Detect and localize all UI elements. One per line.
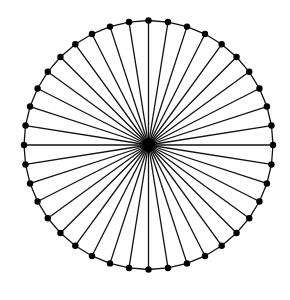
rim-node bbox=[126, 19, 132, 25]
rim-node bbox=[264, 180, 270, 186]
rim-node bbox=[270, 142, 276, 148]
rim-node bbox=[165, 265, 171, 271]
spoke-line bbox=[149, 145, 187, 263]
rim-node bbox=[27, 103, 33, 109]
spoke-line bbox=[48, 72, 149, 145]
spoke-line bbox=[149, 145, 250, 218]
spoke-line bbox=[149, 145, 237, 233]
rim-node bbox=[233, 230, 239, 236]
spoke-line bbox=[75, 145, 148, 246]
spoke-line bbox=[149, 107, 267, 145]
spoke-line bbox=[110, 27, 148, 145]
rim-node bbox=[27, 180, 33, 186]
rim-node bbox=[165, 19, 171, 25]
rim-node bbox=[184, 23, 190, 29]
spoke-line bbox=[48, 145, 149, 218]
rim-node bbox=[89, 253, 95, 259]
rim-node bbox=[107, 260, 113, 266]
rim-node bbox=[268, 161, 274, 167]
spoke-line bbox=[30, 107, 148, 145]
rim-node bbox=[233, 54, 239, 60]
spoke-line bbox=[30, 145, 148, 183]
rim-node bbox=[57, 230, 63, 236]
rim-node bbox=[246, 69, 252, 75]
rim-node bbox=[246, 215, 252, 221]
rim-node bbox=[89, 31, 95, 37]
rim-node bbox=[22, 122, 28, 128]
spoke-line bbox=[60, 57, 148, 145]
spoke-line bbox=[149, 44, 222, 145]
wheel-diagram bbox=[0, 0, 290, 300]
rim-node bbox=[45, 69, 51, 75]
spoke-line bbox=[149, 27, 187, 145]
rim-node bbox=[21, 142, 27, 148]
rim-node bbox=[57, 54, 63, 60]
rim-node bbox=[256, 198, 262, 204]
rim-node bbox=[34, 85, 40, 91]
hub-node bbox=[142, 138, 156, 152]
rim-node bbox=[202, 31, 208, 37]
spoke-line bbox=[149, 145, 267, 183]
rim-node bbox=[184, 260, 190, 266]
rim-node bbox=[45, 215, 51, 221]
rim-node bbox=[218, 41, 224, 47]
rim-node bbox=[145, 266, 151, 272]
rim-node bbox=[202, 253, 208, 259]
spoke-line bbox=[75, 44, 148, 145]
spoke-line bbox=[60, 145, 148, 233]
spoke-line bbox=[149, 72, 250, 145]
spoke-line bbox=[110, 145, 148, 263]
rim-node bbox=[256, 85, 262, 91]
rim-node bbox=[72, 41, 78, 47]
rim-node bbox=[268, 122, 274, 128]
rim-node bbox=[126, 265, 132, 271]
rim-node bbox=[34, 198, 40, 204]
rim-node bbox=[22, 161, 28, 167]
rim-node bbox=[72, 243, 78, 249]
spoke-line bbox=[149, 57, 237, 145]
rim-node bbox=[145, 17, 151, 23]
rim-node bbox=[218, 243, 224, 249]
spoke-line bbox=[149, 145, 222, 246]
rim-node bbox=[264, 103, 270, 109]
rim-node bbox=[107, 23, 113, 29]
